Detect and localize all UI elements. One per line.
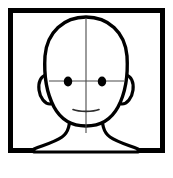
- figure-caption: [47, 163, 127, 170]
- left-eye: [64, 77, 72, 87]
- right-eye: [98, 77, 106, 87]
- head-diagram-canvas: [0, 0, 173, 178]
- head-diagram-figure: [0, 0, 173, 178]
